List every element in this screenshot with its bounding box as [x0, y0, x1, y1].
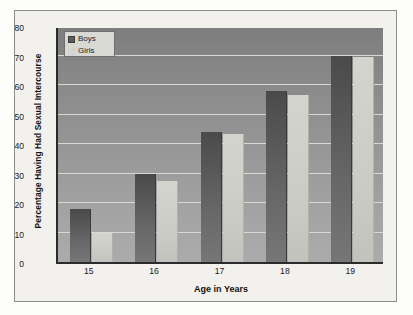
y-tick-label: 30: [0, 171, 24, 181]
x-tick-label: 15: [59, 266, 119, 276]
bar-girls-19: [353, 57, 374, 262]
bar-boys-16: [135, 174, 156, 263]
y-tick-label: 50: [0, 112, 24, 122]
plot-area: [56, 28, 383, 264]
y-axis-title: Percentage Having Had Sexual Intercourse: [33, 21, 43, 261]
bar-girls-17: [223, 134, 244, 262]
x-tick-label: 18: [255, 266, 315, 276]
legend-swatch-boys: [68, 36, 75, 43]
legend-swatch-girls: [68, 48, 75, 55]
bar-boys-18: [266, 91, 287, 262]
legend-label-boys: Boys: [78, 34, 96, 44]
bar-girls-16: [157, 181, 178, 262]
y-tick-label: 20: [0, 200, 24, 210]
y-tick-label: 80: [0, 23, 24, 33]
x-axis-title: Age in Years: [56, 284, 386, 294]
chart-figure: Percentage Having Had Sexual Intercourse…: [0, 0, 413, 315]
bar-boys-19: [331, 56, 352, 263]
bar-boys-17: [201, 132, 222, 262]
bar-girls-15: [92, 233, 113, 263]
legend-item-girls: Girls: [68, 45, 114, 57]
bar-boys-15: [70, 209, 91, 262]
legend-label-girls: Girls: [78, 46, 94, 56]
x-tick-label: 19: [320, 266, 380, 276]
x-tick-label: 17: [190, 266, 250, 276]
y-tick-label: 0: [0, 259, 24, 269]
y-tick-label: 60: [0, 82, 24, 92]
y-tick-label: 10: [0, 230, 24, 240]
x-tick-label: 16: [124, 266, 184, 276]
bar-girls-18: [288, 95, 309, 262]
legend-item-boys: Boys: [68, 33, 114, 45]
chart-legend: Boys Girls: [64, 31, 115, 57]
y-tick-label: 40: [0, 141, 24, 151]
y-tick-label: 70: [0, 53, 24, 63]
